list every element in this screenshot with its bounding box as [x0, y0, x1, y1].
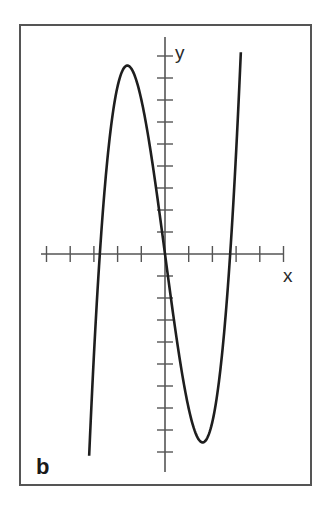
- chart: y x b: [0, 0, 329, 521]
- y-axis-label: y: [175, 42, 185, 63]
- x-axis-label: x: [283, 265, 293, 286]
- axes: [41, 37, 283, 472]
- panel-label: b: [36, 454, 49, 479]
